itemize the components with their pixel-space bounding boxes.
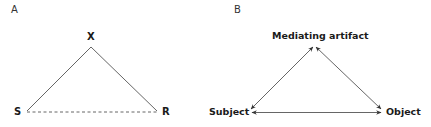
panel-b-triangle xyxy=(251,47,381,113)
edge-subject-artifact xyxy=(251,47,313,109)
panel-a-letter: A xyxy=(11,5,18,15)
edge-x-r xyxy=(91,47,157,111)
node-mediating-artifact: Mediating artifact xyxy=(272,31,369,41)
node-object: Object xyxy=(386,107,421,117)
node-x: X xyxy=(87,32,95,42)
node-r: R xyxy=(162,107,170,117)
edge-artifact-object xyxy=(316,47,381,109)
node-subject: Subject xyxy=(209,107,249,117)
node-s: S xyxy=(14,107,21,117)
panel-a-triangle xyxy=(27,47,157,112)
edge-s-x xyxy=(27,47,91,111)
panel-b-letter: B xyxy=(234,5,241,15)
